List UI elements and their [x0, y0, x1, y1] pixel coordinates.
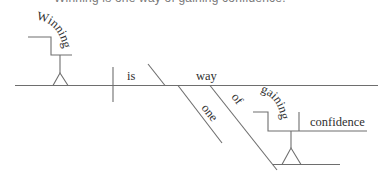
gaining-stilt-triangle [282, 148, 301, 165]
word-one: one [199, 101, 221, 124]
word-gaining: gaining [259, 82, 292, 122]
word-way: way [196, 69, 218, 83]
sentence-diagram: Winning is way one of gaining confidence [0, 0, 389, 187]
word-winning: Winning [36, 9, 75, 50]
winning-stilt-triangle [53, 73, 68, 86]
complement-divider [148, 64, 165, 86]
word-of: of [229, 90, 247, 107]
word-is: is [127, 69, 135, 83]
word-confidence: confidence [310, 115, 365, 129]
